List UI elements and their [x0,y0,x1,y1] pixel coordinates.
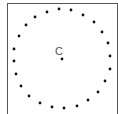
perimeter-dot [93,21,96,24]
perimeter-dot [97,91,100,94]
perimeter-dot [34,16,37,19]
perimeter-dot [13,60,16,63]
perimeter-dot [46,11,49,14]
dot-circle [0,0,118,114]
perimeter-dot [63,107,66,110]
perimeter-dot [58,8,61,11]
perimeter-dot [76,105,79,108]
perimeter-dot [18,35,21,38]
center-dot [61,58,64,61]
perimeter-dot [104,80,107,83]
perimeter-dot [28,95,31,98]
center-label: C [55,46,63,57]
perimeter-dot [70,9,73,12]
perimeter-dot [13,48,16,51]
perimeter-dot [39,102,42,105]
perimeter-dot [25,24,28,27]
perimeter-dot [109,68,112,71]
perimeter-dot [51,106,54,109]
perimeter-dot [82,14,85,17]
perimeter-dot [87,99,90,102]
perimeter-dot [109,55,112,58]
perimeter-dot [107,42,110,45]
perimeter-dot [15,73,18,76]
perimeter-dot [101,31,104,34]
perimeter-dot [20,85,23,88]
